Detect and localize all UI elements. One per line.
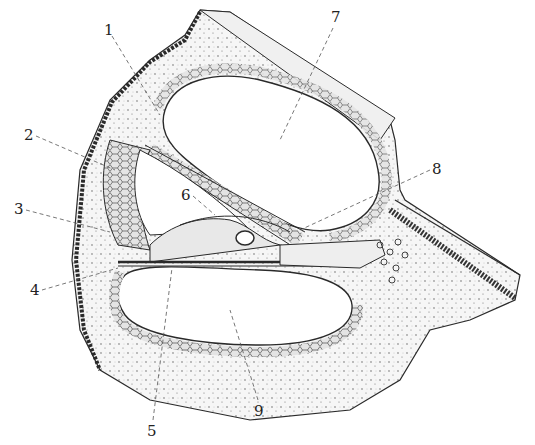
- label-8: 8: [432, 162, 442, 177]
- cochlea-diagram: 1 2 3 4 5 6 7 8 9: [0, 0, 535, 445]
- tunnel: [236, 231, 254, 245]
- cochlea-illustration: [0, 0, 535, 445]
- label-7: 7: [331, 10, 341, 25]
- label-1: 1: [104, 23, 114, 38]
- label-6: 6: [181, 188, 191, 203]
- label-2: 2: [24, 128, 34, 143]
- label-3: 3: [14, 202, 24, 217]
- label-4: 4: [30, 283, 40, 298]
- label-5: 5: [147, 424, 157, 439]
- label-9: 9: [254, 404, 264, 419]
